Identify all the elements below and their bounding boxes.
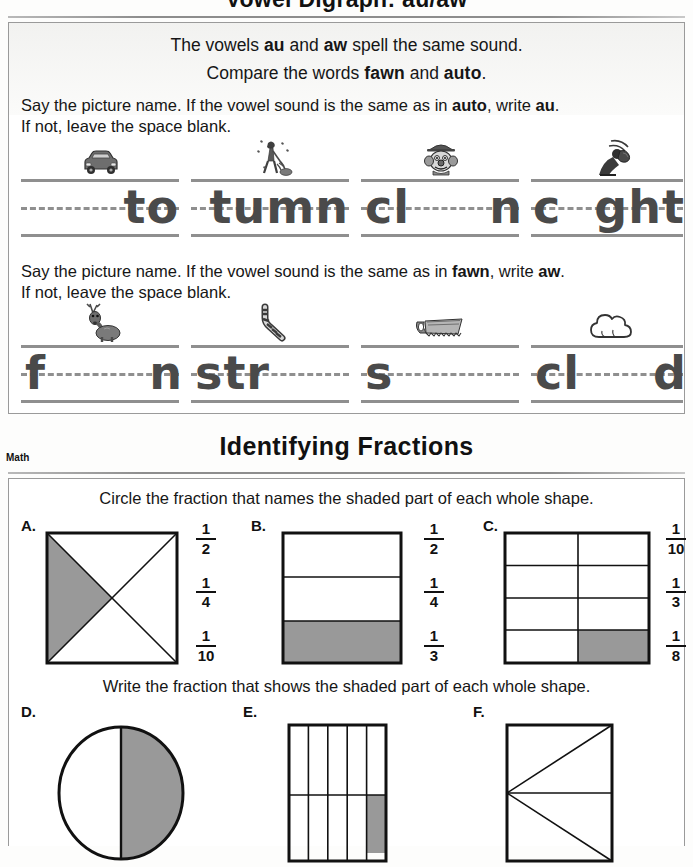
word-prefix: c bbox=[533, 180, 561, 234]
word-suffix: ght bbox=[594, 180, 685, 234]
word-suffix: tumn bbox=[210, 180, 349, 234]
writing-slot-straw[interactable]: str bbox=[191, 345, 349, 405]
option-b-2[interactable]: 1 4 bbox=[417, 575, 451, 611]
word-autumn: tumn bbox=[191, 175, 353, 239]
exercise-2-picture-row bbox=[9, 301, 684, 343]
handsaw-icon bbox=[361, 301, 521, 343]
ex2-dir-line2: If not, leave the space blank. bbox=[21, 283, 231, 301]
exercise-1-answer-row: to tumn cln bbox=[9, 135, 684, 235]
shape-columns-e bbox=[287, 723, 391, 857]
writing-slot-fawn[interactable]: fn bbox=[21, 345, 179, 405]
ex1-dir-pre: Say the picture name. If the vowel sound… bbox=[21, 96, 452, 114]
exercise-2-writing-lines: fn str s bbox=[9, 345, 684, 405]
numerator: 1 bbox=[189, 628, 223, 644]
math-section-title: Identifying Fractions bbox=[0, 432, 693, 461]
denominator: 3 bbox=[659, 594, 693, 610]
lead2-pre: Compare the words bbox=[207, 63, 365, 83]
ex1-dir-bold-au: au bbox=[536, 96, 555, 114]
fraction-options-b[interactable]: 1 2 1 4 1 3 bbox=[417, 521, 451, 682]
option-c-1[interactable]: 1 10 bbox=[659, 521, 693, 557]
item-label-a: A. bbox=[21, 517, 36, 534]
denominator: 2 bbox=[417, 541, 451, 557]
numerator: 1 bbox=[659, 575, 693, 591]
word-fawn: fn bbox=[21, 341, 187, 405]
writing-slot-saw[interactable]: s bbox=[361, 345, 519, 405]
lead-line-1: The vowels au and aw spell the same soun… bbox=[9, 35, 684, 56]
fraction-item-f: F. bbox=[471, 703, 686, 847]
ex1-dir-bold-auto: auto bbox=[452, 96, 487, 114]
denominator: 2 bbox=[189, 541, 223, 557]
lead1-post: spell the same sound. bbox=[347, 35, 522, 55]
numerator: 1 bbox=[417, 575, 451, 591]
cloud-icon bbox=[531, 301, 691, 343]
ex1-dir-mid: , write bbox=[487, 96, 536, 114]
option-a-2[interactable]: 1 4 bbox=[189, 575, 223, 611]
ex1-dir-post: . bbox=[555, 96, 560, 114]
option-b-1[interactable]: 1 2 bbox=[417, 521, 451, 557]
ex2-dir-pre: Say the picture name. If the vowel sound… bbox=[21, 262, 452, 280]
option-a-3[interactable]: 1 10 bbox=[189, 628, 223, 664]
option-c-3[interactable]: 1 8 bbox=[659, 628, 693, 664]
word-suffix: to bbox=[123, 180, 179, 234]
word-prefix: str bbox=[195, 346, 270, 400]
writing-slot-auto[interactable]: to bbox=[21, 179, 179, 239]
fraction-item-b: B. 1 2 1 4 bbox=[249, 517, 459, 667]
writing-slot-autumn[interactable]: tumn bbox=[191, 179, 349, 239]
word-cloud: cld bbox=[531, 341, 691, 405]
subject-tag: Math bbox=[6, 452, 29, 463]
word-suffix: d bbox=[653, 346, 687, 400]
reading-panel: The vowels au and aw spell the same soun… bbox=[8, 22, 685, 414]
lead1-mid: and bbox=[285, 35, 324, 55]
math-divider bbox=[8, 472, 685, 474]
baseball-catcher-icon bbox=[531, 135, 691, 177]
lead2-post: . bbox=[482, 63, 487, 83]
drinking-straw-icon bbox=[191, 301, 351, 343]
numerator: 1 bbox=[417, 521, 451, 537]
fawn-deer-icon bbox=[21, 301, 181, 343]
shape-circle-half-d bbox=[51, 723, 195, 867]
raking-leaves-icon bbox=[191, 135, 351, 177]
fraction-item-c: C. 1 10 1 bbox=[481, 517, 686, 667]
numerator: 1 bbox=[659, 521, 693, 537]
title-divider bbox=[8, 16, 685, 18]
writing-slot-cloud[interactable]: cld bbox=[531, 345, 683, 405]
lead1-bold-au: au bbox=[264, 35, 285, 55]
math-panel: Circle the fraction that names the shade… bbox=[8, 478, 685, 846]
shape-square-diagonals-a bbox=[45, 531, 179, 669]
writing-slot-clown[interactable]: cln bbox=[361, 179, 519, 239]
fraction-options-c[interactable]: 1 10 1 3 1 8 bbox=[659, 521, 693, 682]
lead2-mid: and bbox=[405, 63, 444, 83]
exercise-1-picture-row bbox=[9, 135, 684, 177]
item-label-d: D. bbox=[21, 703, 36, 720]
page-title: Vowel Digraph: au/aw bbox=[0, 0, 693, 13]
option-a-1[interactable]: 1 2 bbox=[189, 521, 223, 557]
word-prefix: f bbox=[25, 346, 46, 400]
numerator: 1 bbox=[189, 521, 223, 537]
ex1-dir-line2: If not, leave the space blank. bbox=[21, 117, 231, 135]
shape-diagonals-f bbox=[505, 723, 621, 857]
car-icon bbox=[21, 135, 181, 177]
word-prefix: cl bbox=[365, 180, 410, 234]
word-clown: cln bbox=[361, 175, 527, 239]
lead2-bold-auto: auto bbox=[444, 63, 482, 83]
word-saw: s bbox=[361, 341, 523, 405]
option-c-2[interactable]: 1 3 bbox=[659, 575, 693, 611]
word-prefix: cl bbox=[535, 346, 580, 400]
item-label-b: B. bbox=[251, 517, 266, 534]
math-direction-bottom: Write the fraction that shows the shaded… bbox=[9, 677, 684, 696]
writing-slot-caught[interactable]: cght bbox=[531, 179, 683, 239]
word-straw: str bbox=[191, 341, 353, 405]
exercise-2-answer-row: fn str s bbox=[9, 301, 684, 401]
lead1-bold-aw: aw bbox=[324, 35, 348, 55]
denominator: 10 bbox=[659, 541, 693, 557]
exercise-2-directions: Say the picture name. If the vowel sound… bbox=[21, 261, 673, 303]
fraction-options-a[interactable]: 1 2 1 4 1 10 bbox=[189, 521, 223, 682]
fraction-item-e: E. bbox=[241, 703, 461, 847]
lead1-pre: The vowels bbox=[171, 35, 264, 55]
option-b-3[interactable]: 1 3 bbox=[417, 628, 451, 664]
exercise-1-writing-lines: to tumn cln bbox=[9, 179, 684, 239]
numerator: 1 bbox=[659, 628, 693, 644]
ex2-dir-post: . bbox=[560, 262, 565, 280]
denominator: 10 bbox=[189, 648, 223, 664]
